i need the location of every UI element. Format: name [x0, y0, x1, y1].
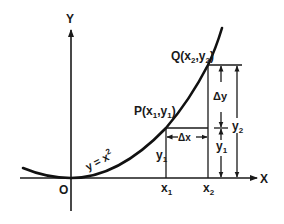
- y1-right-label: y1: [216, 139, 228, 155]
- y2-label: y2: [232, 119, 244, 135]
- origin-label: O: [59, 183, 68, 197]
- y-axis-label: Y: [66, 12, 74, 26]
- construction-lines: [166, 65, 242, 178]
- x-axis: X: [20, 172, 268, 186]
- y-axis: Y: [66, 12, 74, 211]
- delta-y-label: Δy: [213, 90, 228, 102]
- point-p-label: P(x1,y1): [134, 104, 176, 120]
- delta-x-label: Δx: [178, 132, 191, 143]
- delta-x-dimension: Δx: [167, 132, 207, 143]
- x-axis-label: X: [260, 172, 268, 186]
- point-q-label: Q(x2,y2): [171, 49, 214, 65]
- delta-y-dimension: Δy: [213, 66, 228, 127]
- x1-tick-label: x1: [161, 181, 173, 197]
- derivative-diagram: Y X O y = x2 P(x1,y1) Q(x2,y2): [0, 0, 284, 224]
- x2-tick-label: x2: [203, 181, 215, 197]
- y1-dimension: y1: [216, 129, 228, 177]
- y2-dimension: y2: [232, 66, 244, 177]
- parabola-curve: [23, 28, 222, 178]
